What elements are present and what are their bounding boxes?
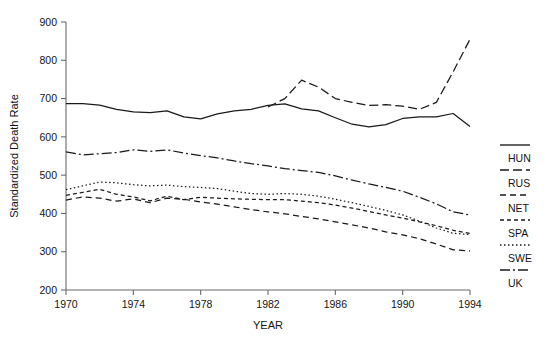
y-tick-label: 400: [39, 207, 57, 219]
x-tick-label: 1982: [256, 298, 280, 310]
x-axis-title: YEAR: [253, 319, 283, 331]
y-tick-label: 900: [39, 16, 57, 28]
legend-label-rus: RUS: [508, 177, 530, 189]
legend-label-swe: SWE: [508, 252, 532, 264]
y-tick-label: 200: [39, 284, 57, 296]
series-line-swe: [66, 182, 470, 234]
legend-label-uk: UK: [508, 277, 523, 289]
x-tick-label: 1990: [391, 298, 415, 310]
series-lines: [66, 39, 470, 251]
y-tick-label: 700: [39, 92, 57, 104]
x-tick-label: 1978: [189, 298, 213, 310]
chart-figure: 200300400500600700800900 197019741978198…: [0, 0, 555, 342]
x-tick-label: 1994: [458, 298, 482, 310]
x-axis: 1970197419781982198619901994: [54, 290, 482, 310]
x-tick-label: 1974: [122, 298, 146, 310]
legend-label-spa: SPA: [508, 227, 528, 239]
y-tick-label: 300: [39, 245, 57, 257]
x-tick-label: 1986: [324, 298, 348, 310]
x-tick-label: 1970: [54, 298, 78, 310]
y-tick-label: 600: [39, 131, 57, 143]
y-tick-label: 500: [39, 169, 57, 181]
legend-label-net: NET: [508, 202, 530, 214]
y-axis-title: Standardized Death Rate: [8, 94, 20, 218]
series-line-rus: [268, 39, 470, 109]
y-tick-label: 800: [39, 54, 57, 66]
legend-label-hun: HUN: [508, 152, 531, 164]
chart-legend: HUNRUSNETSPASWEUK: [500, 145, 532, 289]
series-line-net: [66, 197, 470, 251]
y-axis: 200300400500600700800900: [39, 16, 66, 296]
series-line-uk: [66, 150, 470, 215]
line-chart: 200300400500600700800900 197019741978198…: [0, 0, 555, 342]
